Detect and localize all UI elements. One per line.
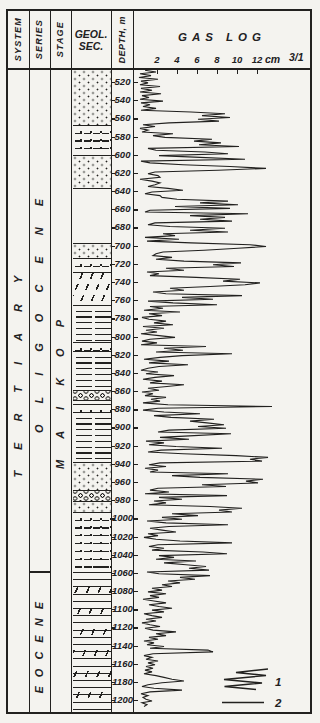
chart-frame (6, 9, 312, 714)
geological-gas-log-figure: SYSTEM SERIES STAGE GEOL. SEC. DEPTH, m … (0, 0, 320, 723)
